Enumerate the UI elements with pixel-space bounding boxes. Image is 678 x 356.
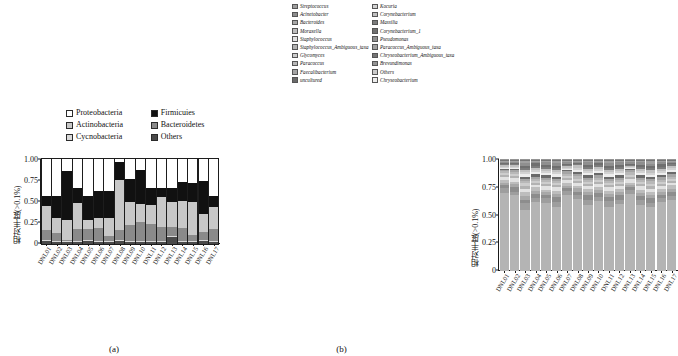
bar-segment [167, 202, 176, 228]
stacked-bar [667, 159, 676, 271]
stacked-bar [552, 159, 561, 271]
panel-a-caption: (a) [0, 344, 228, 354]
legend-b-item: Paracoccus_Ambiguous_taxa [372, 44, 458, 51]
bar-segment [188, 159, 197, 183]
legend-swatch-icon [372, 44, 378, 50]
bar-segment [178, 228, 187, 241]
stacked-bar [625, 159, 634, 271]
x-axis-tick: DNL17 [209, 244, 219, 284]
stacked-bar [42, 159, 51, 244]
legend-b-label: Bacteroides [300, 19, 324, 26]
panel-b-y-axis-label: 相对丰度(>0.1%) [470, 162, 481, 267]
panel-b-plot: 00.250.500.751.00 DNL01DNL02DNL03DNL04DN… [498, 159, 678, 271]
bar-segment [94, 228, 103, 241]
bar-segment [199, 232, 208, 240]
bar-segment [520, 210, 529, 271]
legend-a-label: Proteobacteria [76, 108, 122, 118]
stacked-bar [83, 159, 92, 244]
bar-segment [583, 205, 592, 271]
bar-segment [115, 230, 124, 240]
stacked-bar [146, 159, 155, 244]
legend-b-item: Faecalibacterium [292, 69, 370, 76]
bar-segment [157, 227, 166, 241]
legend-b-item: Glycomyces [292, 52, 370, 59]
bar-segment [94, 218, 103, 228]
panel-b-caption: (b) [228, 344, 455, 354]
stacked-bar [646, 159, 655, 271]
legend-swatch-icon [372, 20, 378, 26]
bar-segment [157, 188, 166, 197]
bar-segment [167, 159, 176, 188]
bar-segment [178, 182, 187, 201]
bar-segment [209, 229, 218, 241]
legend-swatch-icon [292, 77, 298, 83]
legend-swatch-icon [292, 28, 298, 34]
panel-a: ProteobacteriaFirmicuiesActinobacteriaBa… [0, 0, 228, 356]
legend-b-item: Pseudomonas [372, 36, 458, 43]
legend-b-item: Corynebacterium_1 [372, 28, 458, 35]
bar-segment [199, 181, 208, 214]
legend-a-label: Bacteroidetes [161, 120, 205, 130]
bar-segment [657, 202, 666, 271]
legend-b-label: Corynebacterium_1 [380, 28, 421, 35]
bar-segment [136, 204, 145, 222]
stacked-bar [52, 159, 61, 244]
legend-b-label: Paracoccus_Ambiguous_taxa [380, 44, 441, 51]
bar-segment [62, 159, 71, 171]
panel-a-x-axis-labels: DNL01DNL02DNL03DNL04DNL05DNL06DNL07DNL08… [40, 244, 220, 284]
bar-segment [115, 162, 124, 180]
legend-b-label: Massilia [380, 19, 398, 26]
legend-b-item: Acinetobacter [292, 11, 370, 18]
bar-segment [167, 188, 176, 202]
bar-segment [531, 202, 540, 271]
bar-segment [62, 220, 71, 240]
legend-b-item: Chryseobacterium [372, 77, 458, 84]
legend-swatch-icon [372, 69, 378, 75]
bar-segment [510, 195, 519, 271]
bar-segment [52, 218, 61, 233]
stacked-bar [62, 159, 71, 244]
stacked-bar [94, 159, 103, 244]
legend-swatch-icon [372, 28, 378, 34]
legend-b-label: Faecalibacterium [300, 69, 336, 76]
legend-a-item: Bacteroidetes [151, 120, 226, 130]
panel-b-legend: StreptococcusKocuriaAcinetobacterCoryneb… [292, 3, 457, 85]
legend-b-label: Glycomyces [300, 52, 325, 59]
bar-segment [73, 229, 82, 241]
legend-b-label: Chryseobacterium_Ambiguous_taxa [380, 52, 454, 59]
bar-segment [199, 159, 208, 181]
bar-segment [83, 159, 92, 196]
legend-b-label: Streptococcus [300, 3, 328, 10]
legend-swatch-icon [151, 122, 158, 129]
bar-segment [604, 201, 613, 208]
bar-segment [157, 197, 166, 227]
legend-b-label: Paracoccus [300, 60, 324, 67]
stacked-bar [520, 159, 529, 271]
bar-segment [500, 193, 509, 271]
x-axis-tick: DNL17 [667, 271, 677, 311]
legend-swatch-icon [372, 61, 378, 67]
bar-segment [199, 214, 208, 232]
bar-segment [73, 203, 82, 229]
legend-b-label: Brevundimonas [380, 60, 412, 67]
bar-segment [178, 159, 187, 182]
legend-swatch-icon [151, 110, 158, 117]
stacked-bar [157, 159, 166, 244]
panel-a-plot: 00.250.500.751.00 DNL01DNL02DNL03DNL04DN… [40, 159, 220, 244]
legend-a-label: Others [161, 132, 182, 142]
bar-segment [83, 229, 92, 240]
stacked-bar [178, 159, 187, 244]
bar-segment [125, 225, 134, 240]
bar-segment [209, 196, 218, 208]
stacked-bar [188, 159, 197, 244]
bar-segment [636, 205, 645, 271]
bar-segment [83, 220, 92, 229]
legend-b-item: Streptococcus [292, 3, 370, 10]
bar-segment [209, 207, 218, 228]
bar-segment [125, 159, 134, 179]
stacked-bar [531, 159, 540, 271]
stacked-bar [657, 159, 666, 271]
bar-segment [146, 224, 155, 240]
bar-segment [520, 203, 529, 210]
